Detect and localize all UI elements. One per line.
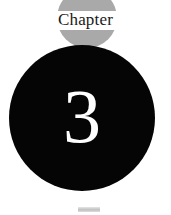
clipped-gray-mark bbox=[78, 207, 100, 212]
chapter-label: Chapter bbox=[0, 9, 171, 31]
chapter-number: 3 bbox=[9, 45, 155, 191]
chapter-opener-page: Chapter 3 bbox=[0, 0, 171, 215]
